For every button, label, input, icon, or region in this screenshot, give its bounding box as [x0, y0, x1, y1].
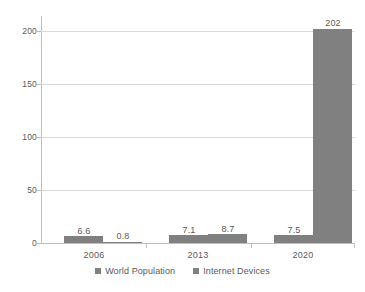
bar-value-world-population-2020: 7.5 — [274, 225, 314, 235]
category-label-2013: 2013 — [178, 250, 218, 260]
bar-value-internet-devices-2013: 8.7 — [208, 224, 248, 234]
legend-item-world-population[interactable]: World Population — [95, 266, 175, 276]
y-tick-label-50: 50 — [5, 185, 37, 195]
bar-internet-devices-2013 — [208, 234, 247, 243]
bar-world-population-2006 — [64, 236, 103, 243]
legend-swatch-icon-internet-devices — [193, 268, 199, 274]
gridline-100 — [41, 137, 355, 138]
gridline-200 — [41, 31, 355, 32]
plot-area — [41, 18, 355, 243]
legend-item-internet-devices[interactable]: Internet Devices — [193, 266, 270, 276]
legend-label-world-population: World Population — [105, 266, 175, 276]
legend-swatch-icon-world-population — [95, 268, 101, 274]
chart-legend: World Population Internet Devices — [0, 266, 365, 276]
bar-value-internet-devices-2006: 0.8 — [103, 231, 143, 241]
gridline-50 — [41, 190, 355, 191]
y-tick-label-0: 0 — [5, 238, 37, 248]
bar-value-world-population-2013: 7.1 — [169, 225, 209, 235]
category-separator-2 — [251, 243, 252, 248]
bar-internet-devices-2006 — [103, 242, 142, 243]
bar-world-population-2013 — [169, 235, 208, 243]
legend-label-internet-devices: Internet Devices — [203, 266, 270, 276]
x-axis-line — [41, 243, 355, 244]
y-tick-label-100: 100 — [5, 132, 37, 142]
y-tick-label-200: 200 — [5, 26, 37, 36]
category-separator-3 — [354, 243, 355, 248]
bar-chart: 200 150 100 50 0 6.6 0.8 7.1 8.7 7.5 202 — [0, 0, 365, 292]
y-tick-label-150: 150 — [5, 79, 37, 89]
category-label-2020: 2020 — [283, 250, 323, 260]
y-axis-tick-labels: 200 150 100 50 0 — [0, 0, 37, 292]
gridline-150 — [41, 84, 355, 85]
bar-world-population-2020 — [274, 235, 313, 243]
category-label-2006: 2006 — [74, 250, 114, 260]
category-separator-1 — [146, 243, 147, 248]
bar-internet-devices-2020 — [313, 29, 352, 243]
bar-value-internet-devices-2020: 202 — [313, 18, 353, 28]
bar-value-world-population-2006: 6.6 — [64, 226, 104, 236]
